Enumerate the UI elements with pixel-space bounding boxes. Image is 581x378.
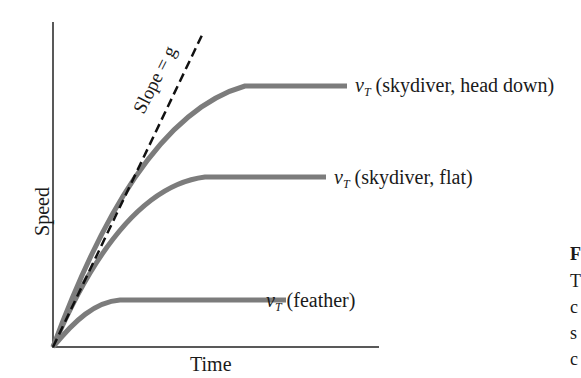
label-flat: vT (skydiver, flat) bbox=[334, 167, 473, 190]
label-feather: vT (feather) bbox=[266, 290, 355, 313]
cropped-caption-fragment: T bbox=[570, 271, 581, 292]
head-down-text: (skydiver, head down) bbox=[376, 74, 555, 96]
curve-flat bbox=[53, 177, 326, 347]
vt-subscript: T bbox=[364, 85, 371, 99]
cropped-caption-fragment: s bbox=[570, 323, 577, 344]
vt-symbol: v bbox=[266, 289, 275, 311]
y-axis-label: Speed bbox=[31, 187, 54, 236]
cropped-caption-fragment: c bbox=[570, 349, 578, 370]
cropped-caption-fragment: c bbox=[570, 297, 578, 318]
flat-text: (skydiver, flat) bbox=[355, 166, 473, 188]
feather-text: (feather) bbox=[287, 289, 356, 311]
vt-symbol: v bbox=[355, 74, 364, 96]
label-head-down: vT (skydiver, head down) bbox=[355, 75, 554, 98]
x-axis-label: Time bbox=[190, 353, 232, 376]
vt-symbol: v bbox=[334, 166, 343, 188]
vt-subscript: T bbox=[275, 300, 282, 314]
vt-subscript: T bbox=[343, 177, 350, 191]
cropped-caption-fragment: F bbox=[570, 244, 581, 265]
curve-feather bbox=[53, 300, 286, 347]
